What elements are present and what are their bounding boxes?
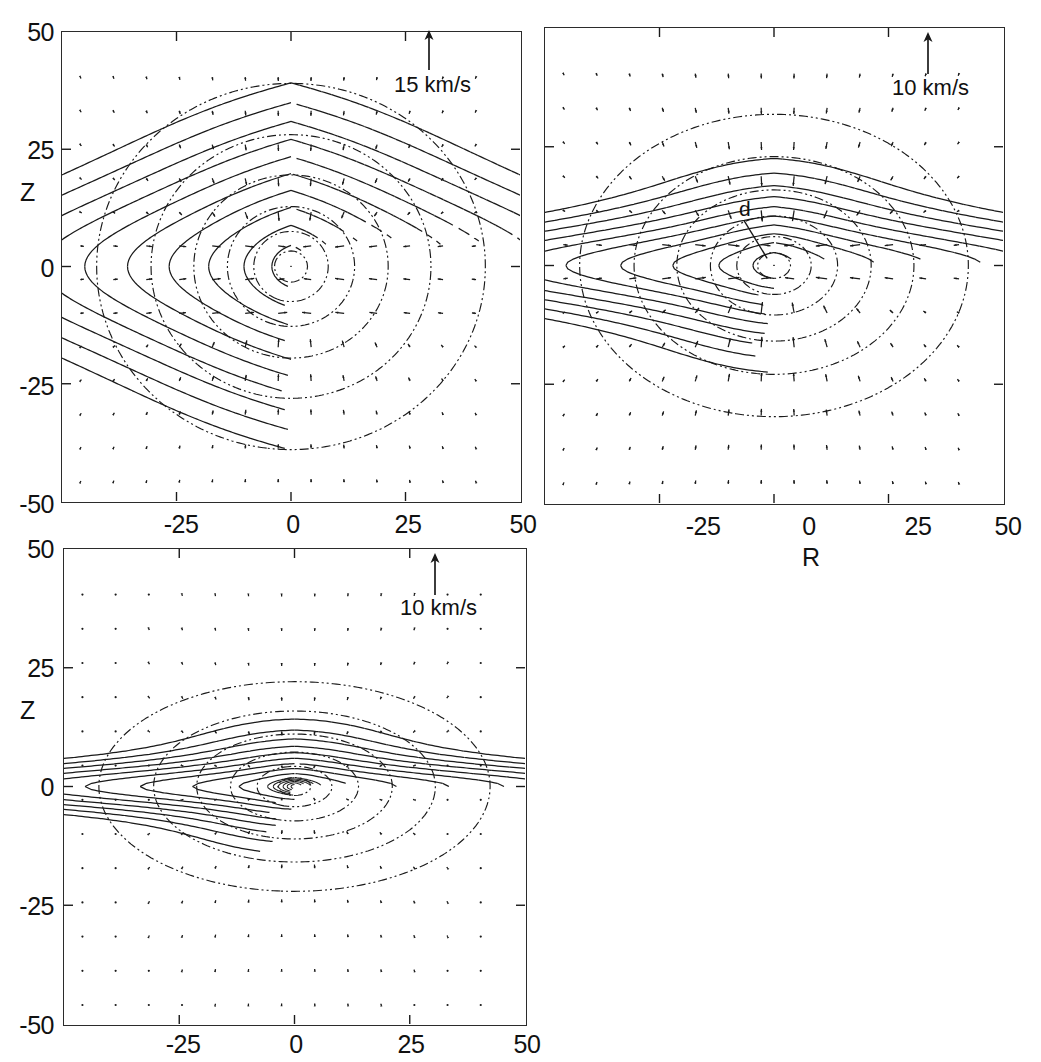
y2-tick-label-m25: -25 — [0, 892, 54, 921]
x-tick-label2-50: 50 — [978, 512, 1038, 541]
x3-tick-label-25: 25 — [381, 1030, 441, 1059]
velocity-legend-arrow-2 — [918, 30, 938, 76]
x-axis-label: R — [802, 543, 820, 572]
y-axis-label-2: Z — [20, 696, 35, 725]
y-tick-label-25: 25 — [8, 136, 54, 165]
y2-tick-label-25: 25 — [8, 654, 54, 683]
velocity-legend-arrow-1 — [419, 28, 439, 72]
x-tick-label2-0: 0 — [779, 512, 839, 541]
y2-tick-label-m50: -50 — [0, 1011, 54, 1040]
plot-canvas-1 — [62, 32, 520, 501]
plot-frame-1 — [61, 31, 522, 503]
y-tick-label-m25: -25 — [0, 372, 54, 401]
x3-tick-label-50: 50 — [497, 1030, 557, 1059]
y-tick-label-m50: -50 — [0, 490, 54, 519]
x-tick-label2-m25: -25 — [673, 512, 733, 541]
panel-bottom-left: 50 25 0 -25 -50 Z -25 0 25 50 10 km/s — [0, 530, 535, 1062]
x3-tick-label-m25: -25 — [153, 1030, 213, 1059]
y-tick-label-0: 0 — [8, 254, 54, 283]
panel-top-left: 50 25 0 -25 -50 Z -25 0 25 50 15 km/s — [0, 0, 535, 545]
velocity-legend-1: 15 km/s — [394, 72, 471, 98]
velocity-legend-arrow-3 — [425, 551, 445, 597]
x-tick-label2-25: 25 — [888, 512, 948, 541]
velocity-legend-3: 10 km/s — [400, 595, 477, 621]
velocity-legend-2: 10 km/s — [892, 75, 969, 101]
y2-tick-label-50: 50 — [8, 535, 54, 564]
panel-top-right: -25 0 25 50 R 10 km/s d — [520, 0, 1041, 570]
y2-tick-label-0: 0 — [8, 773, 54, 802]
annotation-d: d — [739, 197, 751, 221]
x3-tick-label-0: 0 — [266, 1030, 326, 1059]
y-axis-label: Z — [20, 178, 35, 207]
y-tick-label-50: 50 — [8, 18, 54, 47]
